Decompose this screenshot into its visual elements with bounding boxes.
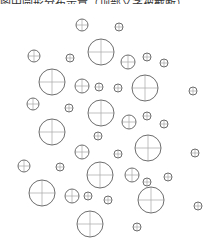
crosshair-circle	[28, 50, 40, 62]
crosshair-circle	[75, 145, 89, 159]
crosshair-circle	[39, 119, 65, 145]
crosshair-circle	[143, 53, 151, 61]
crosshair-circle	[66, 54, 74, 62]
crosshair-circle	[138, 187, 164, 213]
crosshair-circle	[194, 202, 202, 210]
crosshair-circle	[114, 84, 122, 92]
crosshair-circle	[88, 100, 114, 126]
crosshair-circle	[122, 115, 136, 129]
crosshair-circle	[191, 149, 199, 157]
crosshair-circle	[125, 168, 139, 182]
crosshair-circle	[56, 163, 64, 171]
crosshair-circle	[18, 160, 30, 172]
crosshair-circle	[189, 87, 197, 95]
crosshair-circle	[27, 98, 39, 110]
crosshair-circle	[132, 75, 158, 101]
crosshair-circle	[77, 211, 103, 237]
crosshair-circle	[87, 162, 113, 188]
crosshair-circle	[104, 196, 112, 204]
crosshair-circle	[95, 83, 103, 91]
crosshair-circle	[39, 69, 65, 95]
crosshair-circle	[115, 23, 123, 31]
crosshair-circle	[65, 104, 73, 112]
crosshair-circle	[75, 79, 89, 93]
crosshair-circle	[121, 55, 135, 69]
crosshair-circle	[84, 192, 92, 200]
crosshair-circle	[94, 132, 102, 140]
crosshair-circle	[133, 223, 141, 231]
crosshair-circle	[88, 39, 114, 65]
crosshair-circle	[160, 120, 168, 128]
crosshair-circle	[143, 178, 151, 186]
crosshair-circle	[65, 189, 79, 203]
circle-group	[18, 19, 202, 237]
crosshair-circle	[164, 173, 172, 181]
crosshair-circle	[76, 19, 88, 31]
crosshair-circle	[114, 150, 122, 158]
crosshair-circle	[143, 112, 151, 120]
crosshair-circle	[29, 180, 55, 206]
circle-diagram	[0, 0, 216, 250]
crosshair-circle	[160, 59, 168, 67]
crosshair-circle	[135, 135, 161, 161]
